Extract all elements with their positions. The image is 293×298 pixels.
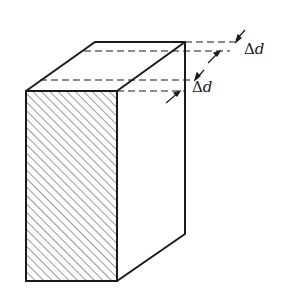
delta-d-label-lower: Δd bbox=[192, 80, 212, 95]
right-face bbox=[117, 42, 185, 281]
delta-symbol: Δ bbox=[244, 40, 255, 58]
delta-symbol: Δ bbox=[192, 78, 203, 96]
front-face-hatched bbox=[26, 91, 117, 281]
top-face bbox=[26, 42, 185, 91]
d-variable: d bbox=[255, 40, 265, 58]
upper-delta-d-arrows bbox=[208, 30, 245, 63]
delta-d-label-upper: Δd bbox=[244, 42, 264, 57]
d-variable: d bbox=[203, 78, 213, 96]
